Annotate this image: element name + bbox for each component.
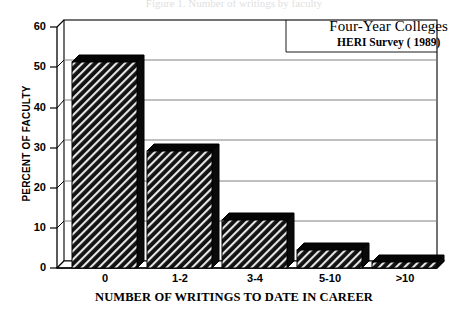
x-tick-label-1-2: 1-2 xyxy=(150,272,210,284)
bar-2 xyxy=(222,213,294,268)
annotation-line-2: HERI Survey ( 1989) xyxy=(329,36,448,48)
y-tick-label-20: 20 xyxy=(20,181,46,193)
x-axis-title: NUMBER OF WRITINGS TO DATE IN CAREER xyxy=(0,290,468,305)
y-tick-label-10: 10 xyxy=(20,221,46,233)
bar-0 xyxy=(72,55,144,268)
bar-3 xyxy=(297,243,369,268)
y-tick-label-0: 0 xyxy=(20,261,46,273)
y-tick-marks xyxy=(50,27,57,268)
chart-figure: Figure 1. Number of writings by faculty … xyxy=(0,0,468,316)
y-tick-label-40: 40 xyxy=(20,101,46,113)
y-tick-depth-connectors xyxy=(57,60,64,228)
chart-annotation: Four-Year Colleges HERI Survey ( 1989) xyxy=(329,18,448,48)
annotation-line-1: Four-Year Colleges xyxy=(329,18,448,35)
x-tick-label-0: 0 xyxy=(75,272,135,284)
bar-1 xyxy=(147,144,219,268)
y-tick-label-60: 60 xyxy=(20,20,46,32)
y-tick-label-50: 50 xyxy=(20,60,46,72)
x-tick-label-3-4: 3-4 xyxy=(225,272,285,284)
depth-edge-top-left xyxy=(57,20,64,27)
y-tick-label-30: 30 xyxy=(20,141,46,153)
x-tick-label-5-10: 5-10 xyxy=(300,272,360,284)
bar-4 xyxy=(372,255,444,268)
x-tick-label-gt10: >10 xyxy=(375,272,435,284)
